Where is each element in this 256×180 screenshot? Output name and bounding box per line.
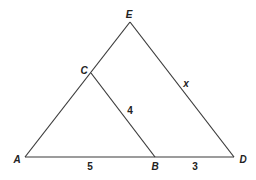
segment-ae (25, 22, 130, 157)
segment-cb (91, 73, 155, 157)
point-label-b: B (151, 162, 158, 172)
triangle-diagram (0, 0, 256, 180)
point-label-c: C (80, 66, 87, 76)
segment-ed (130, 22, 234, 157)
point-label-d: D (239, 155, 246, 165)
point-label-a: A (13, 155, 20, 165)
length-label-ed: x (183, 79, 189, 89)
length-label-cb: 4 (127, 106, 133, 116)
point-label-e: E (126, 10, 133, 20)
length-label-bd: 3 (192, 162, 198, 172)
length-label-ab: 5 (87, 162, 93, 172)
